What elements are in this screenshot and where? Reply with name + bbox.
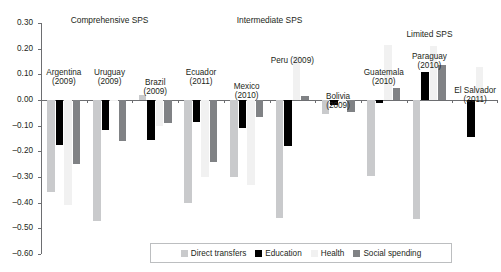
bar — [276, 100, 284, 218]
legend-item[interactable]: Education — [255, 249, 301, 258]
x-axis-tick — [41, 100, 42, 103]
country-label: Mexico(2010) — [213, 82, 281, 101]
country-year: (2010) — [350, 77, 418, 86]
x-axis-tick — [132, 100, 133, 103]
y-axis-tick-mark — [38, 254, 41, 255]
country-year: (2010) — [213, 91, 281, 100]
legend-label: Direct transfers — [191, 249, 247, 258]
x-axis-tick — [407, 100, 408, 103]
bar — [256, 100, 264, 117]
bar — [184, 100, 192, 203]
bar — [193, 100, 201, 122]
bar — [376, 100, 384, 103]
country-name: Bolivia — [304, 92, 372, 101]
country-label: Bolivia(2009) — [304, 92, 372, 111]
y-axis-tick-label: –0.20 — [0, 147, 33, 155]
bar — [413, 100, 421, 219]
country-label: Paraguay(2010) — [395, 52, 463, 71]
y-axis-tick-label: –0.30 — [0, 173, 33, 181]
legend-swatch-icon — [353, 250, 360, 257]
bar — [201, 100, 209, 177]
bar — [421, 72, 429, 100]
y-axis-tick-label: –0.50 — [0, 224, 33, 232]
legend-label: Education — [265, 249, 301, 258]
country-name: Mexico — [213, 82, 281, 91]
bar — [110, 100, 118, 101]
group-header: Limited SPS — [359, 29, 499, 39]
bar — [239, 100, 247, 128]
legend-item[interactable]: Health — [311, 249, 345, 258]
bar — [73, 100, 81, 164]
x-axis-tick — [87, 100, 88, 103]
bar — [102, 100, 110, 130]
bar — [210, 100, 218, 162]
y-axis-tick-label: –0.60 — [0, 250, 33, 258]
country-name: Paraguay — [395, 52, 463, 61]
y-axis-tick-label: 0.20 — [0, 45, 33, 53]
bar — [393, 88, 401, 100]
country-label: Peru (2009) — [258, 56, 326, 65]
country-year: (2009) — [121, 87, 189, 96]
country-name: Ecuador — [167, 68, 235, 77]
bar — [230, 100, 238, 177]
chart-legend: Direct transfersEducationHealthSocial sp… — [150, 243, 452, 263]
legend-item[interactable]: Social spending — [353, 249, 421, 258]
y-axis-tick-label: 0.10 — [0, 70, 33, 78]
bar — [47, 100, 55, 192]
country-name: Uruguay — [76, 68, 144, 77]
group-header: Comprehensive SPS — [40, 15, 180, 25]
country-year: (2011) — [441, 95, 501, 104]
legend-swatch-icon — [311, 250, 318, 257]
bar — [119, 100, 127, 141]
country-year: (2009) — [304, 101, 372, 110]
y-axis-tick-label: –0.40 — [0, 199, 33, 207]
country-label: Guatemala(2010) — [350, 68, 418, 87]
legend-label: Social spending — [363, 249, 421, 258]
y-axis-tick-label: –0.10 — [0, 122, 33, 130]
bar — [156, 100, 164, 126]
bar — [247, 100, 255, 185]
y-axis-tick-label: 0.00 — [0, 96, 33, 104]
bar — [467, 100, 475, 137]
country-name: Peru (2009) — [258, 56, 326, 65]
legend-item[interactable]: Direct transfers — [181, 249, 247, 258]
country-label: El Salvador(2011) — [441, 86, 501, 105]
bar — [164, 100, 172, 123]
x-axis-tick — [178, 100, 179, 103]
y-axis-line — [41, 23, 42, 254]
legend-swatch-icon — [181, 250, 188, 257]
country-year: (2010) — [395, 61, 463, 70]
bar — [367, 100, 375, 176]
legend-label: Health — [321, 249, 345, 258]
group-header: Intermediate SPS — [200, 15, 340, 25]
y-axis-tick-label: 0.30 — [0, 19, 33, 27]
bar — [56, 100, 64, 145]
bar — [147, 100, 155, 140]
bar — [284, 100, 292, 146]
bar-chart: 0.300.200.100.00–0.10–0.20–0.30–0.40–0.5… — [0, 0, 501, 272]
bar — [93, 100, 101, 221]
country-name: El Salvador — [441, 86, 501, 95]
legend-swatch-icon — [255, 250, 262, 257]
bar — [64, 100, 72, 205]
